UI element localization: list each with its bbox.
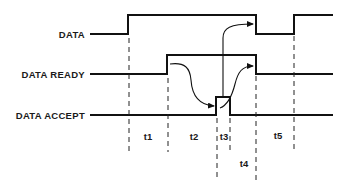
signal-label-data-accept: DATA ACCEPT xyxy=(16,110,85,121)
signal-label-data-ready: DATA READY xyxy=(21,69,85,80)
interval-label-t4: t4 xyxy=(240,158,249,169)
arrow-accept-to-ready xyxy=(220,66,253,108)
interval-label-t5: t5 xyxy=(274,130,283,141)
signal-label-data: DATA xyxy=(59,29,85,40)
timing-diagram: DATA DATA READY DATA ACCEPT t1 t2 t3 t4 … xyxy=(0,0,350,189)
interval-label-t3: t3 xyxy=(220,131,228,142)
interval-label-t2: t2 xyxy=(190,131,198,142)
waveform-data xyxy=(90,15,333,34)
interval-label-t1: t1 xyxy=(144,131,153,142)
waveform-data-ready xyxy=(90,55,333,74)
arrow-ready-to-accept xyxy=(170,64,214,106)
arrow-accept-to-data xyxy=(223,24,253,97)
